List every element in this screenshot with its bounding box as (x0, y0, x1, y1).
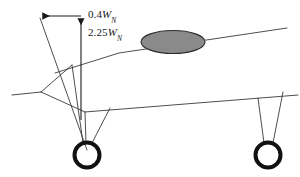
diagonal-leader-line (40, 18, 87, 150)
dimension-label-upper: 0.4WN (88, 8, 116, 23)
fuselage-pod-ellipse (141, 31, 205, 54)
dimension-lower-coefficient: 2.25 (88, 26, 108, 38)
nose-fork-upper-line (41, 65, 72, 92)
left-gear-leg-inner (85, 112, 86, 143)
main-wheel-left (75, 143, 100, 168)
figure-root: 0.4WN 2.25WN (0, 0, 300, 177)
dimension-upper-subscript: N (111, 16, 116, 25)
dimension-arrows (43, 16, 81, 120)
right-gear-leg-rear (273, 92, 283, 143)
dimension-lower-symbol: W (108, 26, 117, 38)
dimension-label-lower: 2.25WN (88, 26, 122, 41)
diagram-canvas (0, 0, 300, 177)
left-gear-leg-rear (92, 108, 110, 143)
dimension-upper-coefficient: 0.4 (88, 8, 102, 20)
dimension-upper-symbol: W (102, 8, 111, 20)
main-wheel-right (256, 143, 281, 168)
nose-boom-line (12, 92, 41, 95)
wheel-group (75, 143, 281, 168)
dimension-lower-subscript: N (117, 34, 122, 43)
lower-body-line (85, 95, 298, 112)
right-gear-leg-front (258, 98, 264, 143)
